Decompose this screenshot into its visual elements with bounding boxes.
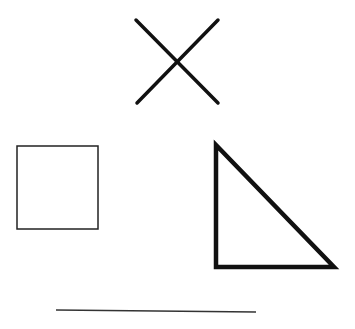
drawing-canvas [0, 0, 355, 329]
square-shape [17, 146, 98, 229]
cross-shape [136, 20, 218, 103]
horizontal-line [56, 310, 256, 312]
triangle-shape [216, 145, 334, 267]
